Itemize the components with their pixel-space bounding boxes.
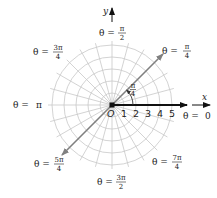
- label-num: 5π: [54, 156, 63, 164]
- origin-label: O: [107, 108, 115, 119]
- label-den: 4: [56, 53, 61, 61]
- label-value: π: [36, 100, 42, 110]
- label-prefix: θ =: [162, 46, 178, 56]
- label-prefix: θ =: [183, 111, 199, 121]
- label-theta-0: θ = 0: [183, 111, 211, 121]
- label-den: 4: [175, 163, 180, 171]
- label-theta-7pi-over-4: θ = 7π 4: [152, 154, 182, 171]
- label-theta-3pi-over-4: θ = 3π 4: [33, 44, 63, 61]
- label-den: 2: [120, 34, 124, 42]
- label-num: 7π: [172, 154, 181, 162]
- label-value: 0: [205, 111, 211, 121]
- label-theta-pi: θ = π: [13, 100, 42, 110]
- radius-tick-3: 3: [145, 108, 151, 119]
- angle-annotation-num: π: [131, 82, 136, 90]
- label-theta-5pi-over-4: θ = 5π 4: [34, 156, 64, 173]
- label-prefix: θ =: [13, 100, 29, 110]
- radius-tick-1: 1: [121, 108, 127, 119]
- radius-tick-2: 2: [133, 108, 139, 119]
- label-num: π: [185, 43, 190, 51]
- label-num: 3π: [116, 174, 125, 182]
- label-num: 3π: [53, 44, 62, 52]
- label-den: 4: [57, 165, 62, 173]
- label-theta-pi-over-4: θ = π 4: [162, 43, 191, 60]
- diagonal-ray-5pi-over-4: [62, 105, 112, 155]
- label-den: 4: [185, 52, 190, 60]
- label-theta-3pi-over-2: θ = 3π 2: [97, 174, 126, 191]
- label-prefix: θ =: [34, 159, 50, 169]
- diagonal-ray-pi-over-4: [112, 54, 163, 105]
- label-prefix: θ =: [33, 47, 49, 57]
- origin-point: [110, 103, 115, 108]
- label-den: 2: [119, 183, 123, 191]
- angle-annotation-den: 4: [131, 90, 136, 98]
- radius-tick-5: 5: [169, 108, 175, 119]
- label-theta-pi-over-2: θ = π 2: [99, 25, 126, 42]
- y-axis-label: y: [102, 6, 109, 16]
- x-axis-label: x: [202, 92, 207, 102]
- label-prefix: θ =: [97, 177, 113, 187]
- label-prefix: θ =: [152, 157, 168, 167]
- label-num: π: [120, 25, 125, 33]
- label-prefix: θ =: [99, 28, 115, 38]
- grid-radial-line: [95, 43, 112, 105]
- polar-diagram: y x π 4 O 1 2 3 4 5 θ = 0 θ = π 4 θ = π …: [0, 0, 217, 198]
- radius-tick-4: 4: [157, 108, 163, 119]
- grid-radial-line: [50, 88, 112, 105]
